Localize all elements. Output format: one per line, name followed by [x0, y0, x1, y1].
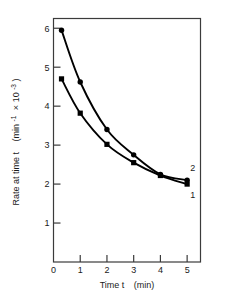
y-tick-label-3: 3: [44, 140, 49, 150]
x-tick-label-3: 3: [131, 265, 136, 275]
x-axis-ticks: [80, 255, 187, 262]
data-point-series-1: [185, 181, 190, 186]
data-point-series-1: [78, 111, 83, 116]
y-axis-title-exp2: -3: [10, 84, 17, 90]
curve-label-2: 2: [190, 163, 195, 173]
data-point-series-1: [59, 76, 64, 81]
x-axis-tick-labels: 012345: [51, 265, 190, 275]
x-tick-label-4: 4: [158, 265, 163, 275]
y-axis-tick-labels: 123456: [44, 24, 49, 229]
y-tick-label-5: 5: [44, 63, 49, 73]
y-axis-title-exp1: -1: [10, 115, 17, 121]
y-axis-title-units-mid: × 10: [11, 92, 21, 110]
chart-svg: 123456 012345 21 Time t (min) Rate at ti…: [0, 0, 238, 301]
curve-label-1: 1: [190, 190, 195, 200]
x-tick-label-1: 1: [78, 265, 83, 275]
x-tick-label-0: 0: [51, 265, 56, 275]
x-axis-title-units: (min): [134, 280, 155, 290]
data-point-series-1: [131, 160, 136, 165]
data-curves: [62, 30, 188, 184]
data-markers: [59, 27, 190, 186]
data-point-series-2: [104, 127, 109, 132]
data-point-series-2: [78, 79, 83, 84]
x-axis-title: Time t (min): [100, 280, 155, 290]
data-point-series-1: [158, 173, 163, 178]
chart-figure: 123456 012345 21 Time t (min) Rate at ti…: [0, 0, 238, 301]
y-tick-label-1: 1: [44, 218, 49, 228]
y-axis-title-main: Rate at time t: [11, 151, 21, 205]
y-axis-title-units-open: (min: [11, 124, 21, 142]
x-axis-title-main: Time t: [100, 280, 125, 290]
x-tick-label-2: 2: [104, 265, 109, 275]
curve-series-labels: 21: [190, 163, 195, 200]
y-axis-title-units-close: ): [11, 79, 21, 82]
data-point-series-2: [59, 27, 64, 32]
y-axis-ticks: [54, 28, 61, 223]
data-point-series-2: [131, 152, 136, 157]
x-tick-label-5: 5: [185, 265, 190, 275]
y-axis-title: Rate at time t (min -1 × 10 -3 ): [8, 79, 22, 206]
curve-series-1: [62, 79, 188, 184]
svg-text:Time t (min): Time t (min): [100, 280, 155, 290]
y-tick-label-6: 6: [44, 24, 49, 34]
plot-frame: [54, 19, 201, 263]
y-tick-label-2: 2: [44, 179, 49, 189]
svg-text:Rate at time t (min: Rate at time t (min -1 × 10 -3 ): [8, 79, 22, 206]
y-tick-label-4: 4: [44, 101, 49, 111]
data-point-series-1: [104, 142, 109, 147]
